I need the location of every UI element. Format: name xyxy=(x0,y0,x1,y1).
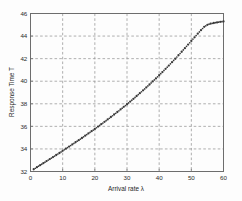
data-point-marker xyxy=(147,85,149,87)
data-point-marker xyxy=(168,64,170,66)
data-point-marker xyxy=(166,66,168,68)
y-tick-label: 36 xyxy=(20,123,27,130)
data-point-marker xyxy=(87,132,89,134)
data-point-marker xyxy=(113,113,115,115)
x-tick-label: 50 xyxy=(188,174,195,181)
data-point-marker xyxy=(173,60,175,62)
data-point-marker xyxy=(92,129,94,131)
data-point-marker xyxy=(174,58,176,60)
data-point-marker xyxy=(197,33,199,35)
x-tick-label: 30 xyxy=(124,174,131,181)
data-point-marker xyxy=(110,116,112,118)
data-point-marker xyxy=(170,63,172,65)
y-tick-label: 34 xyxy=(20,145,27,152)
data-point-marker xyxy=(121,107,123,109)
data-point-marker xyxy=(189,42,191,44)
data-point-marker xyxy=(38,165,40,167)
data-point-marker xyxy=(44,161,46,163)
data-point-marker xyxy=(195,35,197,37)
data-point-marker xyxy=(83,136,85,138)
data-point-marker xyxy=(51,157,53,159)
data-point-marker xyxy=(47,159,49,161)
figure-background xyxy=(0,0,242,201)
data-point-marker xyxy=(221,21,223,23)
data-point-marker xyxy=(116,111,118,113)
data-point-marker xyxy=(60,151,62,153)
data-point-marker xyxy=(41,163,43,165)
data-point-marker xyxy=(142,89,144,91)
data-point-marker xyxy=(125,105,127,107)
data-point-marker xyxy=(193,36,195,38)
data-point-marker xyxy=(163,70,165,72)
data-point-marker xyxy=(128,102,130,104)
y-tick-label: 40 xyxy=(20,77,27,84)
x-tick-label: 40 xyxy=(156,174,163,181)
data-point-marker xyxy=(187,43,189,45)
x-axis-title: Arrival rate λ xyxy=(108,185,145,192)
x-tick-label: 60 xyxy=(220,174,227,181)
data-point-marker xyxy=(119,108,121,110)
data-point-marker xyxy=(181,51,183,53)
data-point-marker xyxy=(153,79,155,81)
data-point-marker xyxy=(131,99,133,101)
data-point-marker xyxy=(102,122,104,124)
data-point-marker xyxy=(115,112,117,114)
y-tick-label: 44 xyxy=(20,32,27,39)
data-point-marker xyxy=(152,80,154,82)
data-point-marker xyxy=(136,95,138,97)
data-point-marker xyxy=(86,134,88,136)
data-point-marker xyxy=(108,117,110,119)
data-point-marker xyxy=(134,97,136,99)
data-point-marker xyxy=(137,94,139,96)
data-point-marker xyxy=(199,31,201,33)
data-point-marker xyxy=(103,121,105,123)
data-point-marker xyxy=(144,88,146,90)
data-point-marker xyxy=(105,120,107,122)
data-point-marker xyxy=(129,100,131,102)
data-point-marker xyxy=(161,71,163,73)
data-point-marker xyxy=(179,53,181,55)
data-point-marker xyxy=(97,125,99,127)
y-tick-label: 32 xyxy=(20,168,27,175)
data-point-marker xyxy=(182,49,184,51)
data-point-marker xyxy=(218,21,220,23)
data-point-marker xyxy=(160,73,162,75)
data-point-marker xyxy=(94,128,96,130)
data-point-marker xyxy=(211,22,213,24)
data-point-marker xyxy=(141,91,143,93)
y-tick-label: 42 xyxy=(20,55,27,62)
data-point-marker xyxy=(100,123,102,125)
data-point-marker xyxy=(184,47,186,49)
data-point-marker xyxy=(54,155,56,157)
data-point-marker xyxy=(126,103,128,105)
x-tick-label: 10 xyxy=(59,174,66,181)
data-point-marker xyxy=(84,135,86,137)
data-point-marker xyxy=(205,25,207,27)
data-point-marker xyxy=(132,98,134,100)
data-point-marker xyxy=(190,40,192,42)
data-point-marker xyxy=(67,147,69,149)
data-point-marker xyxy=(155,77,157,79)
data-point-marker xyxy=(34,167,36,169)
x-tick-label: 20 xyxy=(91,174,98,181)
data-point-marker xyxy=(192,38,194,40)
data-point-marker xyxy=(208,23,210,25)
data-point-marker xyxy=(112,115,114,117)
y-tick-label: 46 xyxy=(20,10,27,17)
data-point-marker xyxy=(145,86,147,88)
data-point-marker xyxy=(150,82,152,84)
data-point-marker xyxy=(158,74,160,76)
data-point-marker xyxy=(171,61,173,63)
data-point-marker xyxy=(186,45,188,47)
data-point-marker xyxy=(118,110,120,112)
data-point-marker xyxy=(216,21,218,23)
data-point-marker xyxy=(200,29,202,31)
data-point-marker xyxy=(107,118,109,120)
data-point-marker xyxy=(73,142,75,144)
data-point-marker xyxy=(202,28,204,30)
response-time-scatter-chart: 0102030405060 3234363840424446 Arrival r… xyxy=(0,0,242,201)
data-point-marker xyxy=(80,138,82,140)
data-point-marker xyxy=(99,125,101,127)
data-point-marker xyxy=(157,76,159,78)
data-point-marker xyxy=(213,22,215,24)
